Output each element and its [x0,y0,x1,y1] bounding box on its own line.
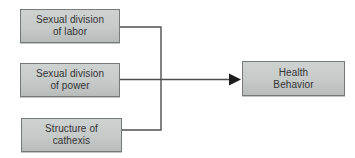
node-label: Sexual division of labor [36,14,104,38]
node-sexual-division-of-labor: Sexual division of labor [20,9,120,43]
node-label: Sexual division of power [36,68,104,92]
node-label: Health Behavior [273,67,313,91]
node-health-behavior: Health Behavior [242,61,345,96]
arrowhead-icon [229,74,241,86]
diagram-canvas: Sexual division of labor Sexual division… [0,0,355,158]
node-sexual-division-of-power: Sexual division of power [20,63,120,97]
bracket-connector-line [120,27,161,130]
node-structure-of-cathexis: Structure of cathexis [21,118,122,152]
node-label: Structure of cathexis [45,123,98,147]
